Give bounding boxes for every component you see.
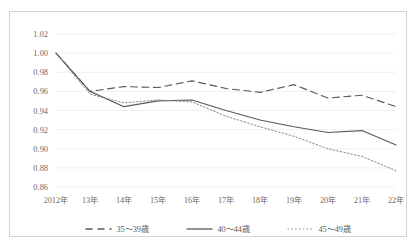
x-axis-tick-label: 15年 [150, 195, 166, 205]
x-axis-tick-label: 20年 [320, 195, 336, 205]
x-axis-tick-label: 19年 [286, 195, 302, 205]
x-axis-tick-label: 14年 [116, 195, 132, 205]
y-axis-tick-label: 0.98 [33, 68, 48, 77]
x-axis-tick-label: 16年 [184, 195, 200, 205]
y-axis-tick-label: 1.00 [33, 49, 48, 58]
legend-label-2: 40～44歳 [218, 224, 250, 234]
x-axis-tick-label: 17年 [218, 195, 234, 205]
x-axis-tick-label: 22年 [388, 195, 404, 205]
x-axis-tick-label: 21年 [354, 195, 370, 205]
plot-area: 1.021.000.980.960.940.920.900.880.862012… [10, 12, 408, 238]
y-axis-tick-label: 0.86 [33, 183, 48, 192]
y-axis-tick-label: 1.02 [33, 30, 48, 39]
line-chart-svg: 1.021.000.980.960.940.920.900.880.862012… [10, 12, 408, 238]
legend-label-1: 35～39歳 [117, 224, 149, 234]
legend-label-3: 45～49歳 [319, 224, 351, 234]
y-axis-tick-label: 0.88 [33, 164, 48, 173]
x-axis-tick-label: 18年 [252, 195, 268, 205]
y-axis-tick-label: 0.94 [33, 107, 48, 116]
x-axis-tick-label: 2012年 [44, 195, 68, 205]
series-line-2 [56, 53, 396, 145]
y-axis-tick-label: 0.92 [33, 126, 48, 135]
series-line-3 [56, 53, 396, 171]
y-axis-tick-label: 0.96 [33, 87, 48, 96]
chart-figure: 1.021.000.980.960.940.920.900.880.862012… [9, 11, 407, 237]
x-axis-tick-label: 13年 [82, 195, 98, 205]
y-axis-tick-label: 0.90 [33, 145, 48, 154]
